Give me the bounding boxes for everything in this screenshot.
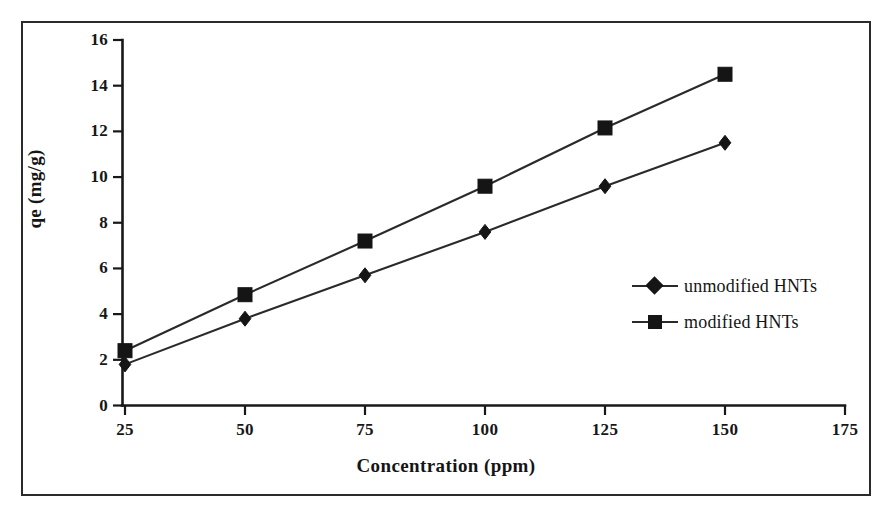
x-axis-ticks [125,406,845,416]
x-tick-label-25: 25 [95,420,155,440]
y-tick-label-0: 0 [68,396,108,416]
data-point-square [238,288,252,302]
y-tick-label-4: 4 [68,304,108,324]
y-tick-label-14: 14 [68,76,108,96]
legend-item-unmodified-hnts: unmodified HNTs [632,268,862,304]
legend-label-unmodified-hnts: unmodified HNTs [684,276,817,297]
data-point-square [478,179,492,193]
data-point-square [358,234,372,248]
legend-item-modified-hnts: modified HNTs [632,304,862,340]
data-point-square [718,67,732,81]
x-tick-label-150: 150 [695,420,755,440]
x-axis-title: Concentration (ppm) [0,455,892,477]
x-tick-label-75: 75 [335,420,395,440]
data-point-diamond [599,179,611,194]
data-point-diamond [719,135,731,150]
y-tick-label-12: 12 [68,121,108,141]
data-point-square [118,344,132,358]
data-point-square [598,121,612,135]
diamond-marker-icon [632,276,678,296]
data-point-diamond [479,224,491,239]
data-point-diamond [239,311,251,326]
y-tick-label-6: 6 [68,258,108,278]
x-tick-label-125: 125 [575,420,635,440]
y-axis-title: qe (mg/g) [24,109,46,269]
square-marker-icon [632,312,678,332]
y-tick-label-2: 2 [68,350,108,370]
y-tick-label-10: 10 [68,167,108,187]
x-tick-label-175: 175 [815,420,875,440]
legend-label-modified-hnts: modified HNTs [684,312,799,333]
chart-legend: unmodified HNTs modified HNTs [632,268,862,340]
x-tick-label-50: 50 [215,420,275,440]
y-tick-label-8: 8 [68,213,108,233]
y-tick-label-16: 16 [68,30,108,50]
x-tick-label-100: 100 [455,420,515,440]
data-point-diamond [359,268,371,283]
chart-figure: 0246810121416 255075100125150175 Concent… [0,0,892,517]
